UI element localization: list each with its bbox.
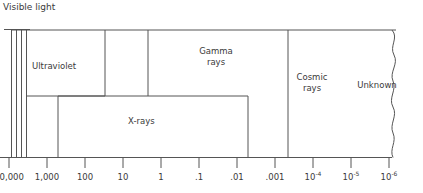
unknown-label: Unknown <box>352 80 402 91</box>
cosmic-rays-label: Cosmic rays <box>288 72 336 93</box>
axis-tick-marks <box>9 157 389 168</box>
visible-light-band <box>12 30 27 157</box>
cosmic-rays-label-line1: Cosmic <box>288 72 336 83</box>
spectrum-line-art <box>0 0 423 193</box>
torn-right-edge <box>391 30 395 158</box>
gamma-rays-label-line1: Gamma <box>186 46 246 57</box>
axis-tick-label: 10-6 <box>359 172 419 182</box>
visible-light-label: Visible light <box>3 2 49 14</box>
cosmic-rays-label-line2: rays <box>288 83 336 94</box>
x-rays-region-outline <box>58 96 248 157</box>
gamma-rays-label-line2: rays <box>186 57 246 68</box>
ultraviolet-label: Ultraviolet <box>32 61 76 72</box>
x-rays-label: X-rays <box>128 116 155 127</box>
gamma-rays-label: Gamma rays <box>186 46 246 67</box>
electromagnetic-spectrum-diagram: Visible light Ultraviolet X-rays Gamma r… <box>0 0 423 193</box>
